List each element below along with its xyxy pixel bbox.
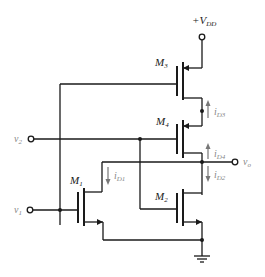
arrow-up-icon [206, 100, 211, 106]
output-label: vo [243, 156, 251, 169]
transistor-m3: M3 [154, 56, 202, 100]
output-terminal [232, 159, 238, 165]
m2-source-arrow-icon [196, 219, 202, 225]
svg-text:iD4: iD4 [214, 148, 226, 161]
svg-text:M2: M2 [154, 190, 168, 204]
transistor-m1: M1 [69, 174, 103, 226]
ground-icon [194, 240, 210, 262]
vdd-terminal: +VDD [192, 14, 216, 40]
m1-source-arrow-icon [97, 219, 103, 225]
input-v2: v2 [14, 133, 34, 146]
svg-text:M1: M1 [69, 174, 83, 188]
current-id3: iD3 [206, 100, 226, 119]
svg-text:v2: v2 [14, 133, 22, 146]
input-v1: v1 [14, 204, 33, 217]
svg-text:v1: v1 [14, 204, 22, 217]
arrow-up-icon [206, 143, 211, 149]
svg-text:M4: M4 [155, 115, 169, 129]
circuit-diagram: +VDD M3 iD3 M4 v2 vo [0, 0, 265, 277]
node-dot [58, 208, 62, 212]
node-dot [200, 109, 204, 113]
svg-text:iD3: iD3 [214, 106, 226, 119]
transistor-m4: M4 [155, 115, 202, 158]
current-id1: iD1 [106, 167, 126, 185]
svg-text:+VDD: +VDD [192, 14, 216, 28]
current-id4: iD4 [206, 143, 226, 161]
svg-text:M3: M3 [154, 56, 168, 70]
current-id2: iD2 [206, 166, 226, 182]
transistor-m2: M2 [154, 189, 202, 226]
arrow-down-icon [106, 179, 111, 185]
svg-text:iD2: iD2 [214, 169, 226, 182]
arrow-down-icon [206, 176, 211, 182]
svg-text:iD1: iD1 [114, 170, 125, 183]
